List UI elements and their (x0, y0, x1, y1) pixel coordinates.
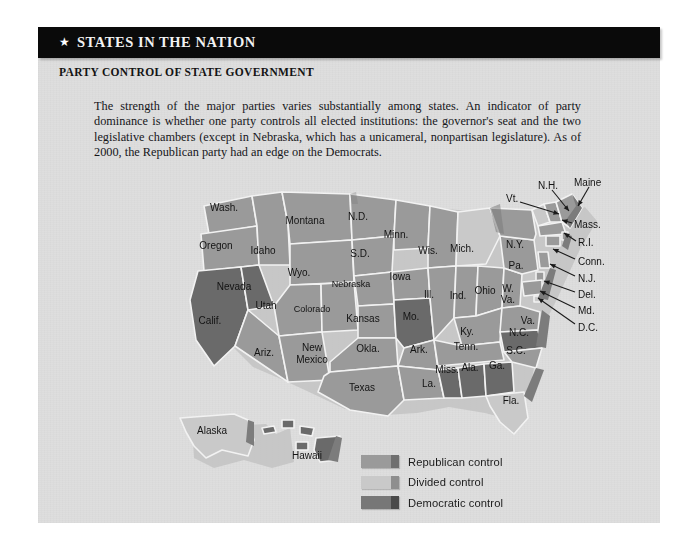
legend-label-democratic: Democratic control (408, 497, 503, 509)
us-map: Wash.OregonCalif.NevadaIdahoMontanaWyo.U… (38, 170, 660, 470)
callout-label: Conn. (578, 256, 605, 267)
state-label: Mich. (450, 243, 474, 254)
state-md (522, 280, 542, 296)
state-label: Kansas (346, 313, 379, 324)
description-paragraph: The strength of the major parties varies… (94, 99, 581, 160)
state-label: Oregon (199, 240, 232, 251)
page-root: ★ STATES IN THE NATION PARTY CONTROL OF … (0, 0, 687, 555)
state-label: Tenn. (454, 341, 478, 352)
section-title: STATES IN THE NATION (77, 34, 256, 51)
state-label: N.C. (509, 327, 529, 338)
state-label: La. (422, 378, 436, 389)
state-label: Texas (349, 382, 375, 393)
callout-label: N.H. (538, 180, 558, 191)
state-label: Wis. (418, 245, 437, 256)
state-mo (394, 298, 434, 348)
state-label: N.D. (348, 211, 368, 222)
state-label: Wash. (210, 202, 238, 213)
callout-label: N.J. (578, 273, 596, 284)
state-label: Ark. (410, 344, 428, 355)
state-label: W. (502, 283, 514, 294)
legend-item-republican[interactable]: Republican control (361, 452, 503, 472)
state-label: Ky. (460, 326, 474, 337)
state-alaska (180, 414, 254, 458)
state-label: New (302, 342, 323, 353)
state-label: Miss. (435, 364, 458, 375)
state-nebraska (354, 272, 394, 306)
callout-label: D.C. (578, 322, 598, 333)
legend-swatch-republican (361, 455, 399, 468)
legend-label-divided: Divided control (408, 476, 484, 488)
state-label: Pa. (508, 260, 523, 271)
state-label: Hawaii (292, 450, 322, 461)
callout-label: Md. (578, 305, 595, 316)
callout-label: R.I. (578, 237, 594, 248)
callout-label: Mass. (574, 219, 601, 230)
state-label: Ariz. (254, 347, 274, 358)
state-label: Iowa (389, 271, 411, 282)
state-label: Ala. (461, 362, 478, 373)
state-conn (546, 236, 560, 246)
map-svg: Wash.OregonCalif.NevadaIdahoMontanaWyo.U… (38, 170, 660, 470)
section-header-bar: ★ STATES IN THE NATION (38, 27, 660, 58)
state-wis (428, 206, 458, 268)
state-nj (538, 252, 550, 268)
state-label: Wyo. (288, 267, 311, 278)
map-legend: Republican control Divided control Democ… (361, 452, 503, 514)
state-minn (394, 200, 430, 250)
state-label: Ind. (450, 290, 467, 301)
state-label: Va. (521, 315, 535, 326)
state-label: Colorado (294, 304, 331, 314)
state-label: Nevada (217, 281, 252, 292)
state-label: Utah (255, 300, 276, 311)
callout-label: Maine (574, 177, 602, 188)
legend-item-divided[interactable]: Divided control (361, 473, 503, 493)
page-title: PARTY CONTROL OF STATE GOVERNMENT (59, 66, 314, 78)
callout-label: Del. (578, 289, 596, 300)
hawaii-isle-4 (296, 442, 308, 450)
state-label: Mo. (403, 311, 420, 322)
state-label: Ill. (424, 289, 434, 300)
legend-swatch-divided (361, 476, 399, 489)
hawaii-isle-2 (282, 420, 294, 428)
state-label: S.D. (350, 248, 369, 259)
hawaii-isle-3 (300, 426, 314, 436)
state-label: Fla. (503, 395, 520, 406)
state-label: Va. (501, 294, 515, 305)
hawaii-isle-1 (262, 426, 276, 434)
star-icon: ★ (59, 36, 70, 48)
state-label: Minn. (384, 229, 408, 240)
legend-swatch-democratic (361, 496, 399, 509)
state-label: S.C. (506, 345, 525, 356)
state-label: Alaska (197, 425, 227, 436)
state-label: N.Y. (506, 239, 524, 250)
legend-item-democratic[interactable]: Democratic control (361, 493, 503, 513)
callout-label: Vt. (506, 193, 518, 204)
state-label: Mexico (296, 354, 328, 365)
legend-label-republican: Republican control (408, 456, 502, 468)
state-label: Ohio (474, 285, 496, 296)
state-label: Idaho (250, 245, 275, 256)
state-label: Montana (286, 215, 325, 226)
state-label: Ga. (489, 360, 505, 371)
state-label: Okla. (356, 343, 379, 354)
state-label: Nebraska (332, 279, 371, 289)
state-label: Calif. (199, 315, 222, 326)
